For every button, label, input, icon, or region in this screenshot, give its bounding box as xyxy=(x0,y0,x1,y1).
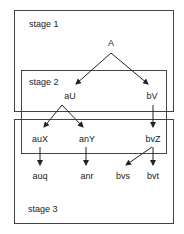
node-bvt: bvt xyxy=(147,171,160,181)
stage-boxes: stage 1stage 2stage 3 xyxy=(15,11,174,224)
node-anY: anY xyxy=(79,134,95,144)
node-bvs: bvs xyxy=(116,171,131,181)
edge-aU-to-auX-arrow-icon xyxy=(44,105,62,127)
flow-diagram: stage 1stage 2stage 3 AaUbVauXanYbvZauqa… xyxy=(0,0,184,234)
stage-2-label: stage 2 xyxy=(29,77,59,87)
edge-A-to-aU-arrow-icon xyxy=(76,53,111,84)
edge-A-to-bV-arrow-icon xyxy=(111,53,148,84)
node-bvZ: bvZ xyxy=(145,134,161,144)
stage-3-label: stage 3 xyxy=(28,204,58,214)
node-auq: auq xyxy=(32,171,47,181)
node-aU: aU xyxy=(64,91,76,101)
edge-aU-to-anY-arrow-icon xyxy=(62,105,83,127)
stage-1-label: stage 1 xyxy=(29,19,59,29)
node-A: A xyxy=(108,38,114,48)
node-anr: anr xyxy=(80,171,93,181)
node-bV: bV xyxy=(146,91,157,101)
node-auX: auX xyxy=(32,134,48,144)
edges xyxy=(40,53,153,165)
nodes: AaUbVauXanYbvZauqanrbvsbvt xyxy=(32,38,161,181)
edge-bvZ-to-bvs-arrow-icon xyxy=(126,147,152,165)
